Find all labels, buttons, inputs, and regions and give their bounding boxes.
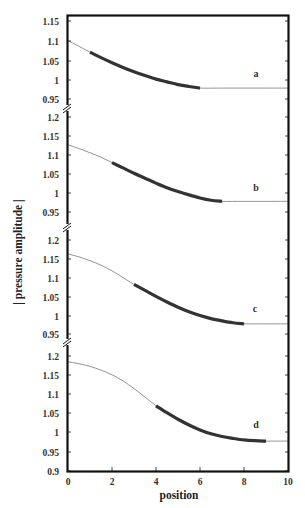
y-tick-label: 0.9 bbox=[47, 467, 59, 477]
panel-label-d: d bbox=[253, 419, 259, 430]
y-tick-label: 0.95 bbox=[42, 95, 59, 105]
y-tick-label: 1.2 bbox=[47, 236, 59, 246]
x-tick-label: 10 bbox=[283, 477, 293, 487]
x-tick-label: 4 bbox=[154, 477, 159, 487]
y-axis-title: | pressure amplitude | bbox=[12, 199, 25, 304]
y-tick-label: 1.05 bbox=[42, 293, 59, 303]
panel-label-a: a bbox=[254, 68, 259, 79]
y-tick-label: 1.2 bbox=[47, 113, 59, 123]
x-tick-label: 6 bbox=[198, 477, 203, 487]
y-tick-label: 1.05 bbox=[42, 409, 59, 419]
x-tick-label: 8 bbox=[242, 477, 247, 487]
x-tick-label: 0 bbox=[66, 477, 71, 487]
x-axis-title: position bbox=[160, 489, 200, 502]
curve-a-full bbox=[68, 41, 288, 89]
y-tick-label: 0.95 bbox=[42, 448, 59, 458]
curve-c-highlight bbox=[134, 284, 244, 323]
y-tick-label: 1.2 bbox=[47, 352, 59, 362]
y-tick-label: 1.1 bbox=[47, 390, 59, 400]
panel-label-c: c bbox=[253, 303, 258, 314]
y-tick-label: 1.1 bbox=[47, 274, 59, 284]
y-tick-label: 1.05 bbox=[42, 57, 59, 67]
y-tick-label: 1.1 bbox=[47, 151, 59, 161]
y-tick-label: 1.15 bbox=[42, 255, 59, 265]
y-tick-label: 1.1 bbox=[47, 37, 59, 47]
curve-d-highlight bbox=[156, 406, 266, 441]
y-tick-label: 1.05 bbox=[42, 170, 59, 180]
y-tick-label: 1.15 bbox=[42, 371, 59, 381]
pressure-amplitude-chart: 02468101.151.11.0510.951.21.151.11.0510.… bbox=[0, 0, 305, 508]
x-tick-label: 2 bbox=[110, 477, 115, 487]
y-tick-label: 1 bbox=[54, 76, 59, 86]
tick-labels: 02468101.151.11.0510.951.21.151.11.0510.… bbox=[42, 17, 293, 488]
y-tick-label: 1.15 bbox=[42, 17, 59, 27]
y-tick-label: 1 bbox=[54, 189, 59, 199]
plot-layer bbox=[68, 41, 288, 442]
y-tick-label: 0.95 bbox=[42, 208, 59, 218]
curve-a-highlight bbox=[90, 52, 200, 88]
curve-b-highlight bbox=[112, 163, 222, 202]
y-tick-label: 1 bbox=[54, 428, 59, 438]
panel-label-b: b bbox=[253, 182, 259, 193]
y-tick-label: 1.15 bbox=[42, 132, 59, 142]
y-tick-label: 0.95 bbox=[42, 330, 59, 340]
y-tick-label: 1 bbox=[54, 312, 59, 322]
